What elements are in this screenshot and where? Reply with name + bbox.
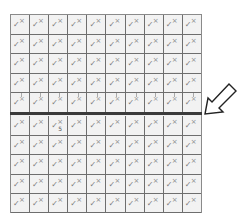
grid-cell[interactable]: ✓× [11, 54, 30, 74]
grid-cell[interactable]: ✓× [183, 175, 201, 195]
grid-cell[interactable]: ✓× [106, 93, 125, 113]
grid-cell[interactable]: ✓× [183, 74, 201, 94]
grid-cell[interactable]: ✓× [68, 15, 87, 35]
grid-cell[interactable]: ✓× [164, 136, 183, 156]
grid-cell[interactable]: ✓× [30, 74, 49, 94]
grid-cell[interactable]: ✓× [49, 15, 68, 35]
grid-cell[interactable]: ✓× [87, 155, 106, 175]
grid-cell[interactable]: ✓× [49, 136, 68, 156]
grid-cell[interactable]: ✓× [145, 155, 164, 175]
grid-cell[interactable]: ✓× [145, 175, 164, 195]
grid-cell[interactable]: ✓× [126, 136, 145, 156]
grid-cell[interactable]: ✓× [87, 194, 106, 213]
grid-cell[interactable]: ✓× [11, 155, 30, 175]
grid-cell[interactable]: ✓× [11, 74, 30, 94]
grid-cell[interactable]: ✓× [87, 136, 106, 156]
grid-cell[interactable]: ✓× [11, 175, 30, 195]
grid-cell[interactable]: ✓× [30, 136, 49, 156]
grid-cell[interactable]: ✓× [145, 136, 164, 156]
grid-cell[interactable]: ✓× [68, 194, 87, 213]
grid-cell[interactable]: ✓× [145, 74, 164, 94]
grid-cell[interactable]: ✓× [87, 74, 106, 94]
grid-cell[interactable]: ✓× [183, 116, 201, 136]
grid-cell[interactable]: ✓× [30, 54, 49, 74]
grid-cell[interactable]: ✓× [164, 155, 183, 175]
grid-cell[interactable]: ✓× [126, 93, 145, 113]
grid-cell[interactable]: ✓× [49, 93, 68, 113]
grid-cell[interactable]: ✓× [68, 136, 87, 156]
grid-cell[interactable]: ✓× [145, 93, 164, 113]
grid-cell[interactable]: ✓× [11, 15, 30, 35]
grid-cell[interactable]: ✓× [164, 74, 183, 94]
grid-cell[interactable]: ✓× [11, 93, 30, 113]
grid-cell[interactable]: ✓× [145, 54, 164, 74]
grid-cell[interactable]: ✓× [183, 15, 201, 35]
grid-cell[interactable]: ✓× [126, 194, 145, 213]
grid-cell[interactable]: ✓× [68, 35, 87, 55]
grid-cell[interactable]: ✓× [126, 175, 145, 195]
grid-cell[interactable]: ✓× [49, 155, 68, 175]
grid-cell[interactable]: ✓× [183, 136, 201, 156]
grid-cell[interactable]: ✓× [87, 54, 106, 74]
grid-cell[interactable]: ✓× [126, 35, 145, 55]
grid-cell[interactable]: ✓× [145, 15, 164, 35]
grid-cell[interactable]: ✓× [11, 35, 30, 55]
grid-cell[interactable]: ✓× [145, 194, 164, 213]
grid-cell[interactable]: ✓× [68, 175, 87, 195]
grid-cell[interactable]: ✓× [145, 116, 164, 136]
grid-cell[interactable]: ✓× [106, 15, 125, 35]
grid-cell[interactable]: ✓× [106, 74, 125, 94]
grid-cell[interactable]: ✓× [183, 35, 201, 55]
grid-cell[interactable]: ✓× [30, 194, 49, 213]
grid-cell[interactable]: ✓× [126, 155, 145, 175]
grid-cell[interactable]: ✓× [164, 194, 183, 213]
grid-cell[interactable]: ✓× [183, 54, 201, 74]
grid-cell[interactable]: ✓× [164, 15, 183, 35]
grid-cell[interactable]: ✓× [30, 15, 49, 35]
grid-cell[interactable]: ✓× [49, 194, 68, 213]
grid-cell[interactable]: ✓× [106, 175, 125, 195]
grid-cell[interactable]: ✓× [126, 15, 145, 35]
grid-cell[interactable]: ✓× [126, 116, 145, 136]
grid-cell[interactable]: ✓× [11, 136, 30, 156]
grid-cell[interactable]: ✓× [164, 35, 183, 55]
grid-cell[interactable]: ✓× [106, 35, 125, 55]
grid-cell[interactable]: ✓× [183, 194, 201, 213]
grid-cell[interactable]: ✓× [126, 74, 145, 94]
grid-cell[interactable]: ✓× [106, 155, 125, 175]
grid-cell[interactable]: ✓× [164, 54, 183, 74]
grid-cell[interactable]: ✓× [87, 93, 106, 113]
grid-cell[interactable]: ✓× [49, 175, 68, 195]
grid-cell[interactable]: ✓× [68, 54, 87, 74]
grid-cell[interactable]: ✓× [49, 74, 68, 94]
grid-cell[interactable]: ✓× [30, 155, 49, 175]
grid-cell[interactable]: ✓× [145, 35, 164, 55]
grid-cell[interactable]: ✓× [87, 15, 106, 35]
grid-cell[interactable]: ✓× [68, 155, 87, 175]
grid-cell[interactable]: ✓× [164, 175, 183, 195]
grid-cell[interactable]: ✓× [106, 136, 125, 156]
grid-cell[interactable]: ✓× [106, 54, 125, 74]
grid-cell[interactable]: ✓× [68, 116, 87, 136]
grid-cell[interactable]: ✓×5 [49, 116, 68, 136]
grid-cell[interactable]: ✓× [49, 54, 68, 74]
grid-cell[interactable]: ✓× [164, 93, 183, 113]
grid-cell[interactable]: ✓× [68, 74, 87, 94]
grid-cell[interactable]: ✓× [49, 35, 68, 55]
grid-cell[interactable]: ✓× [30, 35, 49, 55]
grid-cell[interactable]: ✓× [11, 194, 30, 213]
grid-cell[interactable]: ✓× [11, 116, 30, 136]
grid-cell[interactable]: ✓× [183, 93, 201, 113]
grid-cell[interactable]: ✓× [87, 116, 106, 136]
grid-cell[interactable]: ✓× [183, 155, 201, 175]
grid-cell[interactable]: ✓× [30, 116, 49, 136]
grid-cell[interactable]: ✓× [87, 35, 106, 55]
grid-cell[interactable]: ✓× [68, 93, 87, 113]
grid-cell[interactable]: ✓× [106, 116, 125, 136]
grid-cell[interactable]: ✓× [30, 175, 49, 195]
grid-cell[interactable]: ✓× [164, 116, 183, 136]
grid-cell[interactable]: ✓× [87, 175, 106, 195]
grid-cell[interactable]: ✓× [30, 93, 49, 113]
grid-cell[interactable]: ✓× [126, 54, 145, 74]
grid-cell[interactable]: ✓× [106, 194, 125, 213]
